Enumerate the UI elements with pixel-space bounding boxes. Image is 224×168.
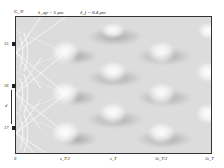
period-arrow	[11, 90, 12, 124]
x-tick-3half-zt: 3z_T/2	[155, 157, 167, 162]
marker-15-label: 15	[4, 42, 9, 47]
x-tick-half-zt: z_T/2	[60, 157, 70, 162]
wavelength-annotation: λ_ap = 5 μm	[38, 10, 63, 15]
intensity-plot	[15, 16, 212, 154]
x-tick-zt: z_T	[110, 157, 117, 162]
marker-17	[12, 126, 16, 130]
y-axis-label: G_N	[14, 9, 23, 14]
marker-17-label: 17	[4, 126, 9, 131]
marker-15	[12, 42, 16, 46]
period-label: d	[5, 104, 7, 109]
talbot-pattern	[16, 17, 211, 153]
marker-16-label: 16	[4, 84, 9, 89]
talbot-carpet-figure: G_N λ_ap = 5 μm δ_f = 0.4 μm	[0, 0, 224, 168]
x-tick-0: 0	[14, 157, 16, 162]
delta-annotation: δ_f = 0.4 μm	[80, 10, 106, 15]
marker-16	[12, 84, 16, 88]
x-tick-2zt: 2z_T	[205, 157, 214, 162]
